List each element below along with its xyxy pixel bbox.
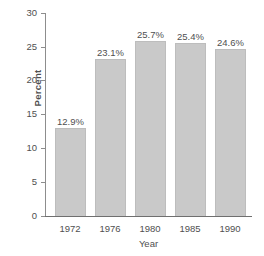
bar-1985[interactable]: 25.4% bbox=[175, 43, 206, 216]
y-tick-20: 20 bbox=[41, 80, 45, 81]
x-axis-title: Year bbox=[45, 238, 252, 249]
bar-1976[interactable]: 23.1% bbox=[95, 59, 126, 216]
bar-value-1976: 23.1% bbox=[97, 47, 124, 58]
y-tick-label-20: 20 bbox=[26, 74, 37, 85]
x-axis-line bbox=[45, 216, 252, 217]
y-tick-30: 30 bbox=[41, 13, 45, 14]
y-tick-5: 5 bbox=[41, 182, 45, 183]
y-tick-label-15: 15 bbox=[26, 108, 37, 119]
bar-value-1985: 25.4% bbox=[177, 31, 204, 42]
y-tick-15: 15 bbox=[41, 114, 45, 115]
y-tick-25: 25 bbox=[41, 47, 45, 48]
y-tick-label-0: 0 bbox=[32, 210, 37, 221]
y-tick-label-25: 25 bbox=[26, 41, 37, 52]
bar-1972[interactable]: 12.9% bbox=[55, 128, 86, 216]
bar-1990[interactable]: 24.6% bbox=[215, 49, 246, 216]
bar-1980[interactable]: 25.7% bbox=[135, 41, 166, 216]
x-tick-label-1976: 1976 bbox=[88, 223, 132, 234]
bar-chart: Percent 0 5 10 15 20 25 30 12.9% 2 bbox=[0, 0, 264, 256]
x-tick-label-1990: 1990 bbox=[208, 223, 252, 234]
y-tick-label-5: 5 bbox=[32, 176, 37, 187]
y-tick-label-30: 30 bbox=[26, 7, 37, 18]
x-tick-label-1980: 1980 bbox=[128, 223, 172, 234]
y-tick-label-10: 10 bbox=[26, 142, 37, 153]
y-tick-10: 10 bbox=[41, 148, 45, 149]
x-tick-label-1985: 1985 bbox=[168, 223, 212, 234]
bar-value-1972: 12.9% bbox=[57, 116, 84, 127]
y-tick-0: 0 bbox=[41, 216, 45, 217]
plot-area: 0 5 10 15 20 25 30 12.9% 23.1% 25.7% bbox=[45, 13, 252, 217]
y-axis-line bbox=[45, 13, 46, 217]
bar-value-1980: 25.7% bbox=[137, 29, 164, 40]
x-tick-label-1972: 1972 bbox=[48, 223, 92, 234]
bar-value-1990: 24.6% bbox=[217, 37, 244, 48]
